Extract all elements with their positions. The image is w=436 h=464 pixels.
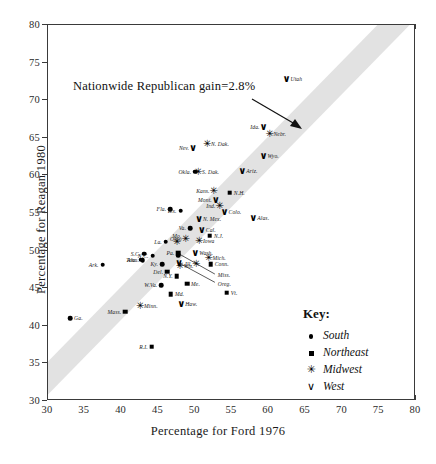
data-point-oreg: ∨ [175, 261, 183, 266]
x-tick-top [415, 24, 416, 29]
point-label: Del. [153, 269, 163, 275]
legend-item-label: Midwest [323, 363, 362, 375]
point-label: Utah [291, 76, 303, 82]
point-label: Oreg. [218, 281, 231, 287]
data-point-iowa: ✳ [195, 238, 203, 243]
point-label: Kans. [196, 188, 209, 194]
point-label: Vt. [231, 290, 238, 296]
legend-item-northeast: Northeast [303, 344, 368, 360]
data-point-utah: ∨ [283, 77, 291, 82]
point-label: Minn. [144, 303, 158, 309]
data-point-miss [176, 253, 181, 258]
legend-item-label: West [323, 380, 344, 392]
data-point-n-y [175, 274, 180, 279]
data-point-alas: ∨ [249, 215, 257, 220]
point-label: Wis. [184, 263, 194, 269]
y-tick-label: 30 [29, 395, 40, 406]
asterisk-icon: ✳ [303, 363, 319, 376]
data-point-ariz: ∨ [238, 168, 246, 173]
data-point-n-mex: ∨ [195, 217, 203, 222]
data-point-nev: ∨ [189, 146, 197, 151]
data-point-minn: ✳ [136, 304, 144, 309]
data-point-mass [123, 309, 128, 314]
x-tick-label: 30 [42, 404, 53, 415]
legend-item-south: South [303, 327, 368, 343]
square-icon [303, 346, 319, 359]
data-point-vt [225, 290, 230, 295]
point-label: N. Dak. [211, 141, 229, 147]
point-label: N.J. [214, 233, 223, 239]
point-label: Va. [179, 225, 186, 231]
annotation-text: Nationwide Republican gain=2.8% [73, 79, 255, 94]
point-label: Miss. [218, 272, 230, 278]
point-label: Mass. [108, 309, 122, 315]
point-label: N.H. [234, 190, 245, 196]
y-tick-label: 50 [29, 244, 40, 255]
data-point-s-c [142, 251, 147, 256]
x-tick-label: 60 [262, 404, 273, 415]
y-tick-label: 55 [29, 207, 40, 218]
point-label: Tenn. [126, 257, 139, 263]
data-point-haw: ∨ [177, 302, 185, 307]
data-point-va [188, 226, 193, 231]
chart-root: Percentage for Reagan 1980 Percentage fo… [0, 0, 436, 464]
data-point-r-i [150, 345, 155, 350]
data-point-ga [68, 316, 73, 321]
point-label: Ga. [74, 315, 83, 321]
y-tick-label: 75 [29, 56, 40, 67]
data-point-md [169, 292, 174, 297]
y-tick-label: 70 [29, 94, 40, 105]
point-label: S. Dak. [202, 169, 219, 175]
data-point-w-va [159, 283, 164, 288]
annotation-arrow [250, 95, 310, 135]
point-label: Ark. [89, 262, 99, 268]
x-tick-label: 45 [152, 404, 163, 415]
legend-item-label: South [323, 329, 349, 341]
data-point-n-h [228, 190, 233, 195]
point-label: Me. [191, 281, 200, 287]
legend: Key: SouthNortheast✳Midwest∨West [303, 306, 368, 395]
legend-item-label: Northeast [323, 346, 368, 358]
point-label: Mo. [172, 233, 181, 239]
point-label: Md. [175, 291, 184, 297]
y-tick-label: 40 [29, 319, 40, 330]
point-label: Wyo. [268, 153, 279, 159]
x-tick-label: 35 [78, 404, 89, 415]
data-point-me [185, 281, 190, 286]
legend-title: Key: [303, 306, 368, 322]
x-tick [415, 395, 416, 400]
data-point-mich: ✳ [204, 256, 212, 261]
data-point-conn [208, 262, 213, 267]
data-point-ark [100, 263, 105, 268]
data-point-ky [160, 262, 165, 267]
data-point-colo: ∨ [221, 210, 229, 215]
legend-item-midwest: ✳Midwest [303, 361, 368, 377]
data-point-ohio: ✳ [182, 237, 190, 242]
point-label: Ky. [150, 261, 158, 267]
x-axis-title: Percentage for Ford 1976 [0, 424, 436, 439]
y-tick-label: 35 [29, 357, 40, 368]
data-point-wyo: ∨ [260, 153, 268, 158]
y-tick [42, 400, 47, 401]
point-label: Iowa [203, 238, 215, 244]
point-label: Tex. [167, 208, 176, 214]
data-point-tex [178, 208, 183, 213]
x-tick-label: 70 [336, 404, 347, 415]
y-tick-label: 60 [29, 169, 40, 180]
circle-icon [303, 329, 319, 342]
x-tick-label: 40 [115, 404, 126, 415]
point-label: W.Va. [144, 282, 157, 288]
point-label: Fla. [157, 206, 167, 212]
data-point-n-c [150, 254, 155, 259]
point-label: Haw. [185, 301, 197, 307]
data-point-s-dak: ✳ [194, 169, 202, 174]
x-tick-label: 50 [189, 404, 200, 415]
data-point-mo: ✳ [173, 239, 181, 244]
x-tick-label: 55 [226, 404, 237, 415]
data-point-tenn [141, 258, 146, 263]
point-label: Colo. [229, 209, 242, 215]
point-label: Alas. [257, 215, 269, 221]
x-tick-label: 65 [299, 404, 310, 415]
y-tick-label: 65 [29, 131, 40, 142]
legend-entries: SouthNortheast✳Midwest∨West [303, 327, 368, 394]
